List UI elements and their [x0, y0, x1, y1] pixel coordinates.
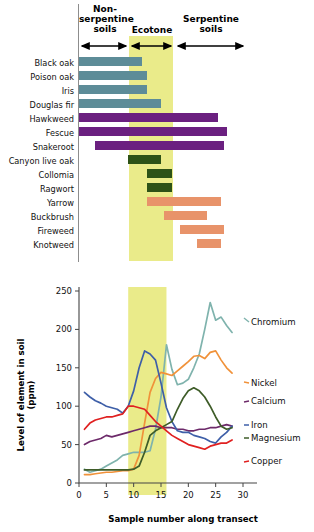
x-tick-label: 20 [183, 490, 194, 500]
legend-label-nickel: Nickel [251, 378, 277, 388]
legend-leader [244, 461, 249, 462]
y-tick-label: 100 [56, 401, 72, 411]
y-tick-label: 150 [56, 363, 72, 373]
legend-leader [244, 382, 249, 383]
x-tick-label: 0 [76, 490, 81, 500]
y-tick-label: 250 [56, 286, 72, 296]
y-axis-title: Level of element in soil (ppm) [16, 325, 36, 465]
x-tick-label: 10 [128, 490, 139, 500]
line-chart-svg: 050100150200250051015202530ChromiumNicke… [0, 0, 314, 532]
legend-label-calcium: Calcium [251, 396, 286, 406]
x-tick-label: 30 [238, 490, 249, 500]
x-tick-label: 5 [104, 490, 109, 500]
legend-leader [244, 401, 249, 402]
serpentine-soil-figure: Non- serpentine soils Ecotone Serpentine… [0, 0, 314, 532]
x-tick-label: 15 [156, 490, 167, 500]
x-axis-title: Sample number along transect [78, 514, 288, 524]
y-tick-label: 200 [56, 324, 72, 334]
x-tick-label: 25 [210, 490, 221, 500]
legend-label-chromium: Chromium [251, 317, 296, 327]
legend-label-magnesium: Magnesium [251, 433, 301, 443]
y-tick-label: 50 [61, 440, 72, 450]
y-tick-label: 0 [67, 478, 72, 488]
legend-leader [244, 318, 249, 322]
legend-label-iron: Iron [251, 420, 268, 430]
legend-label-copper: Copper [251, 456, 282, 466]
element-line-chart: 050100150200250051015202530ChromiumNicke… [0, 0, 314, 532]
axis-lines [79, 287, 257, 483]
